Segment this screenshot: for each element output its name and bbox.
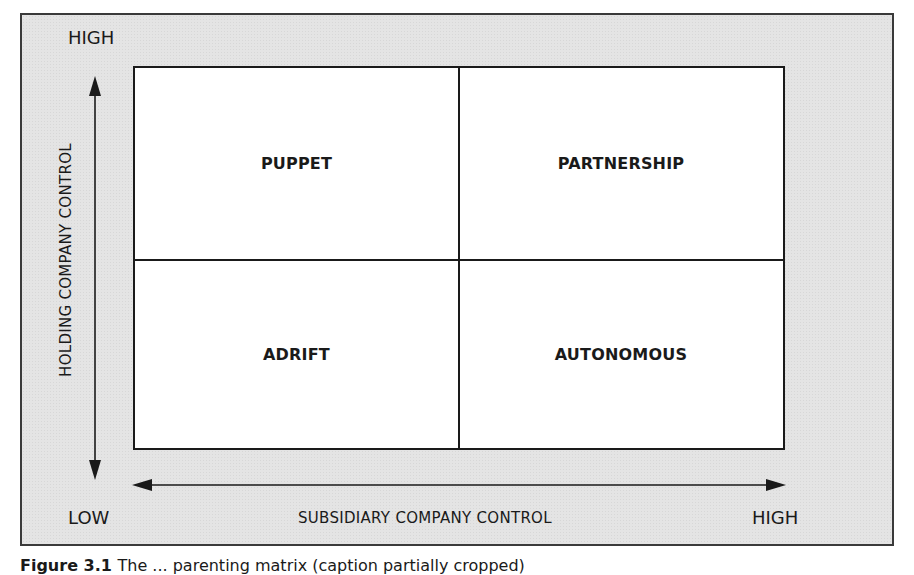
caption-text: The ... parenting matrix (caption partia… [118, 556, 525, 575]
figure-caption: Figure 3.1 The ... parenting matrix (cap… [20, 556, 525, 575]
quadrant-autonomous: AUTONOMOUS [460, 261, 782, 447]
matrix-grid: PUPPET PARTNERSHIP ADRIFT AUTONOMOUS [133, 66, 785, 450]
quadrant-puppet: PUPPET [135, 68, 458, 259]
x-axis-double-arrow-icon [132, 479, 786, 491]
quadrant-label: PUPPET [261, 154, 332, 173]
y-axis-double-arrow-icon [89, 76, 101, 480]
quadrant-label: PARTNERSHIP [558, 154, 685, 173]
quadrant-partnership: PARTNERSHIP [460, 68, 782, 259]
quadrant-label: AUTONOMOUS [555, 345, 687, 364]
caption-label: Figure 3.1 [20, 556, 112, 575]
quadrant-adrift: ADRIFT [135, 261, 458, 447]
quadrant-label: ADRIFT [263, 345, 330, 364]
